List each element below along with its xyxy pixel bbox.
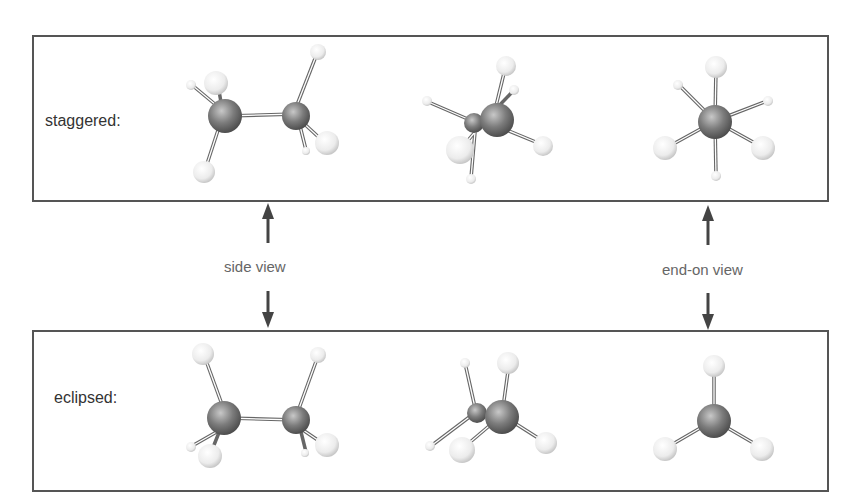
eclipsed-molecules (0, 0, 858, 501)
